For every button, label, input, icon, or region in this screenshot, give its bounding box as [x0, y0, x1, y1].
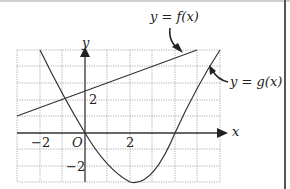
origin-label: O	[72, 136, 83, 149]
x-axis-label: x	[232, 125, 239, 138]
g-label: y = g(x)	[230, 75, 282, 88]
x-axis-arrow-icon	[217, 128, 228, 138]
axes	[17, 55, 220, 182]
f-label: y = f(x)	[150, 10, 199, 23]
tick-x-pos2: 2	[126, 136, 134, 149]
graph-canvas	[0, 0, 290, 189]
tick-y-neg2: −2	[66, 160, 85, 173]
y-axis-label: y	[82, 36, 89, 49]
tick-x-neg2: −2	[31, 136, 50, 149]
grid	[17, 50, 220, 182]
tick-y-pos2: 2	[89, 93, 97, 106]
